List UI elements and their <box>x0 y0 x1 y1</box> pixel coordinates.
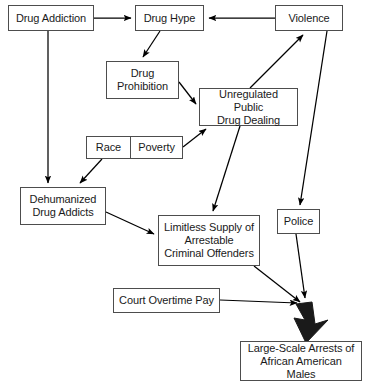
edge-unregulated-dealing-to-violence <box>250 35 303 88</box>
node-label: Drug Prohibition <box>117 67 168 93</box>
node-label: Large-Scale Arrests of African American … <box>245 342 357 381</box>
node-label: Drug Hype <box>144 12 196 25</box>
node-label: Limitless Supply of Arrestable Criminal … <box>164 221 254 260</box>
node-poverty[interactable]: Poverty <box>130 136 183 159</box>
node-court-overtime-pay[interactable]: Court Overtime Pay <box>113 288 220 313</box>
edge-race-to-dehumanized-addicts <box>80 159 102 183</box>
edge-poverty-to-unregulated-dealing <box>183 129 206 147</box>
node-label: Police <box>284 215 313 228</box>
edge-drug-prohibition-to-unregulated-dealing <box>179 82 196 104</box>
edge-court-overtime-pay-to-arrests <box>220 300 297 303</box>
node-violence[interactable]: Violence <box>275 5 343 31</box>
node-drug-addiction[interactable]: Drug Addiction <box>8 5 94 31</box>
node-label: Race <box>96 141 121 154</box>
edge-convergence-to-arrests-thick <box>294 302 328 343</box>
flowchart-canvas: Drug Addiction Drug Hype Violence Drug P… <box>0 0 368 388</box>
node-label: Violence <box>288 12 329 25</box>
node-limitless-supply-of-arrestable-criminal-offenders[interactable]: Limitless Supply of Arrestable Criminal … <box>158 215 260 266</box>
node-police[interactable]: Police <box>277 209 320 234</box>
node-label: Poverty <box>138 141 175 154</box>
node-large-scale-arrests-of-african-american-males[interactable]: Large-Scale Arrests of African American … <box>240 341 362 381</box>
node-unregulated-public-drug-dealing[interactable]: Unregulated Public Drug Dealing <box>199 88 298 126</box>
node-drug-prohibition[interactable]: Drug Prohibition <box>106 61 179 99</box>
node-drug-hype[interactable]: Drug Hype <box>135 5 204 31</box>
edge-unregulated-dealing-to-limitless-supply <box>213 126 240 211</box>
edge-violence-to-police <box>300 31 327 205</box>
node-label: Drug Addiction <box>16 12 86 25</box>
node-dehumanized-drug-addicts[interactable]: Dehumanized Drug Addicts <box>20 187 106 225</box>
node-label: Unregulated Public Drug Dealing <box>204 88 293 127</box>
node-race[interactable]: Race <box>86 136 130 159</box>
edge-drug-hype-to-drug-prohibition <box>143 31 160 57</box>
edge-limitless-supply-to-arrests <box>254 266 300 302</box>
edge-police-to-arrests <box>296 234 305 298</box>
node-label: Court Overtime Pay <box>119 294 214 307</box>
edge-dehumanized-addicts-to-limitless-supply <box>106 212 154 234</box>
node-label: Dehumanized Drug Addicts <box>30 193 97 219</box>
